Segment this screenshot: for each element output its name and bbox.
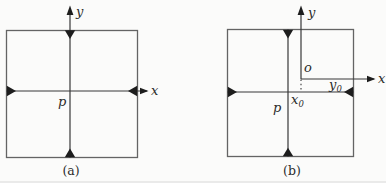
- figure-a-top-edge-arrow-icon: [65, 30, 75, 39]
- figure-b-top-edge-arrow-icon: [283, 30, 293, 39]
- figure-b-y-axis-label: y: [307, 5, 316, 20]
- diagram-canvas: y x p (a) y x o: [0, 0, 386, 183]
- figure-a-caption: (a): [62, 163, 79, 178]
- figure-a: y x p (a): [7, 4, 160, 178]
- figure-a-left-edge-arrow-icon: [7, 86, 16, 96]
- figure-a-bottom-edge-arrow-icon: [65, 149, 75, 158]
- diagram-page: y x p (a) y x o: [0, 0, 386, 183]
- figure-a-square: [7, 31, 138, 158]
- figure-a-y-axis-label: y: [75, 4, 84, 19]
- figure-b-left-edge-arrow-icon: [228, 87, 237, 97]
- figure-b-origin-label: o: [304, 60, 312, 75]
- figure-b-caption: (b): [283, 163, 301, 178]
- figure-a-x-axis-label: x: [151, 83, 159, 98]
- figure-b-bottom-edge-arrow-icon: [283, 148, 293, 157]
- figure-b-point-p-label: p: [273, 100, 282, 115]
- figure-b-y0-subscript: 0: [337, 84, 343, 94]
- figure-b-x0-subscript: 0: [299, 99, 305, 109]
- figure-b-right-edge-arrow-icon: [344, 87, 353, 97]
- figure-b-x-axis-label: x: [378, 71, 386, 86]
- figure-a-point-p-label: p: [58, 94, 67, 109]
- figure-a-x-axis-arrow-icon: [140, 88, 149, 94]
- figure-b-x0-label: x 0: [291, 92, 305, 109]
- figure-b-x-axis-arrow-icon: [367, 76, 376, 82]
- figure-a-y-axis-arrow-icon: [67, 6, 74, 16]
- figure-b-y-axis-arrow-icon: [298, 6, 305, 16]
- figure-b: y x o p x 0 y 0 (b): [228, 5, 386, 178]
- figure-a-right-edge-arrow-icon: [128, 86, 137, 96]
